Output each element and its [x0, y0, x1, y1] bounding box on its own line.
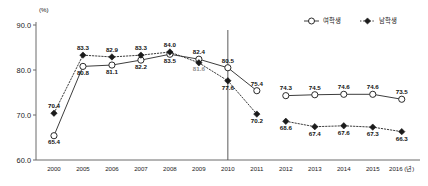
data-label-male: 70.2 [251, 117, 264, 124]
data-label-female: 75.4 [251, 80, 264, 87]
data-label-male: 83.3 [135, 44, 148, 51]
data-point-female[interactable] [225, 65, 231, 71]
data-label-female: 81.1 [106, 68, 119, 75]
data-point-female[interactable] [341, 91, 347, 97]
data-label-female: 80.8 [77, 69, 90, 76]
x-tick-label: 2013 [308, 165, 322, 172]
legend-marker-male[interactable] [364, 18, 370, 24]
data-label-male: 84.0 [164, 41, 177, 48]
y-tick-label: 80.0 [17, 66, 31, 75]
x-tick-label: 2005 [76, 165, 90, 172]
data-label-male: 70.4 [48, 102, 61, 109]
data-point-male[interactable] [109, 54, 115, 60]
data-point-male[interactable] [51, 110, 57, 116]
y-tick-label: 60.0 [17, 156, 31, 165]
data-label-male: 77.6 [222, 84, 235, 91]
data-label-female: 82.2 [135, 63, 148, 70]
data-label-female: 83.5 [164, 57, 177, 64]
data-point-male[interactable] [80, 52, 86, 58]
data-label-male: 83.3 [77, 44, 90, 51]
data-label-male: 67.3 [367, 130, 380, 137]
x-tick-label: 2015 [366, 165, 380, 172]
x-tick-label: 2006 [105, 165, 119, 172]
legend-marker-female[interactable] [309, 18, 315, 24]
data-label-female: 80.5 [222, 57, 235, 64]
y-axis-unit-label: (%) [39, 6, 49, 13]
chart-legend[interactable]: 여학생남학생 [304, 16, 397, 25]
y-tick-label: 70.0 [17, 111, 31, 120]
line-chart: 90.080.070.060.0(%)200020052006200720082… [0, 0, 428, 186]
x-tick-label: 2007 [134, 165, 148, 172]
x-tick-label: 2000 [47, 165, 61, 172]
legend-label-male: 남학생 [379, 16, 397, 25]
data-point-female[interactable] [254, 88, 260, 94]
data-label-male: 67.4 [309, 130, 322, 137]
x-tick-label: 2009 [192, 165, 206, 172]
x-tick-label: 2011 [250, 165, 264, 172]
data-label-female: 74.6 [367, 83, 380, 90]
x-tick-label: 2008 [163, 165, 177, 172]
data-point-female[interactable] [370, 91, 376, 97]
data-label-female: 74.5 [309, 84, 322, 91]
x-tick-label: 2014 [337, 165, 351, 172]
x-tick-label: 2016 (년) [389, 165, 414, 172]
data-label-male: 82.9 [106, 46, 119, 53]
data-label-female: 65.4 [48, 138, 61, 145]
data-label-male: 81.6 [193, 65, 206, 72]
data-point-female[interactable] [312, 92, 318, 98]
data-label-female: 74.6 [338, 83, 351, 90]
data-label-male: 66.3 [396, 135, 409, 142]
data-label-male: 67.6 [338, 129, 351, 136]
data-label-female: 73.5 [396, 88, 409, 95]
chart-container: 90.080.070.060.0(%)200020052006200720082… [0, 0, 428, 186]
data-label-male: 68.6 [280, 124, 293, 131]
x-tick-label: 2010 [221, 165, 235, 172]
data-point-female[interactable] [399, 96, 405, 102]
legend-label-female: 여학생 [323, 16, 341, 25]
y-tick-label: 90.0 [17, 21, 31, 30]
data-label-female: 74.3 [280, 84, 293, 91]
data-label-female: 82.4 [193, 48, 206, 55]
data-point-female[interactable] [283, 93, 289, 99]
x-tick-label: 2012 [279, 165, 293, 172]
